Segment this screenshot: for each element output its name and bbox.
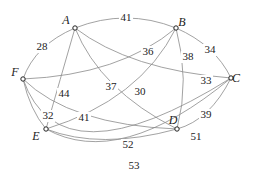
edge-weight-label: 38 [183,50,195,62]
edge-weight-label: 33 [201,74,213,86]
edge-weight-label: 44 [59,87,71,99]
edge-weight-label: 53 [129,159,141,171]
edge-weight-label: 39 [201,108,213,120]
edge-weight-label: 34 [205,43,217,55]
edge-weight-label: 30 [135,85,147,97]
node-d [175,127,179,131]
edge-weight-label: 36 [143,45,155,57]
node-label-d: D [168,113,178,127]
edge-a-f [23,28,75,79]
node-e [44,127,48,131]
node-label-a: A [61,13,70,27]
edge-weight-label: 28 [37,40,49,52]
node-label-b: B [178,15,186,29]
edge-weight-label: 37 [106,80,118,92]
node-f [21,77,25,81]
node-label-c: C [232,71,241,85]
edge-weight-label: 41 [79,111,90,123]
edge-b-e [46,28,176,129]
edge-weight-label: 41 [121,11,132,23]
node-a [73,26,77,30]
node-label-e: E [31,129,40,143]
edge-weight-label: 51 [191,130,202,142]
node-label-f: F [10,65,19,79]
weighted-graph-diagram: 412844373336343830324139525153 ABCDEF [0,0,253,174]
edge-weight-label: 32 [43,109,54,121]
edge-weight-label: 52 [123,138,134,150]
